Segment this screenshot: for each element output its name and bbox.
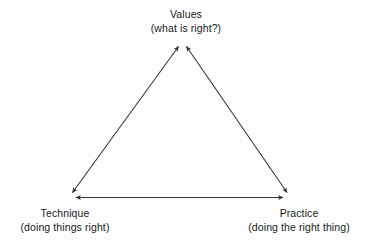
node-subtitle-technique: (doing things right): [0, 221, 130, 235]
node-subtitle-practice: (doing the right thing): [226, 221, 372, 235]
node-title-technique: Technique: [0, 207, 130, 221]
node-label-values: Values (what is right?): [91, 8, 281, 35]
node-label-technique: Technique (doing things right): [0, 207, 130, 234]
connector-practice-values: [187, 47, 288, 193]
node-title-values: Values: [91, 8, 281, 22]
node-title-practice: Practice: [226, 207, 372, 221]
connector-technique-values: [73, 47, 179, 193]
node-subtitle-values: (what is right?): [91, 22, 281, 36]
node-label-practice: Practice (doing the right thing): [226, 207, 372, 234]
triangle-diagram: Values (what is right?) Technique (doing…: [0, 0, 372, 248]
